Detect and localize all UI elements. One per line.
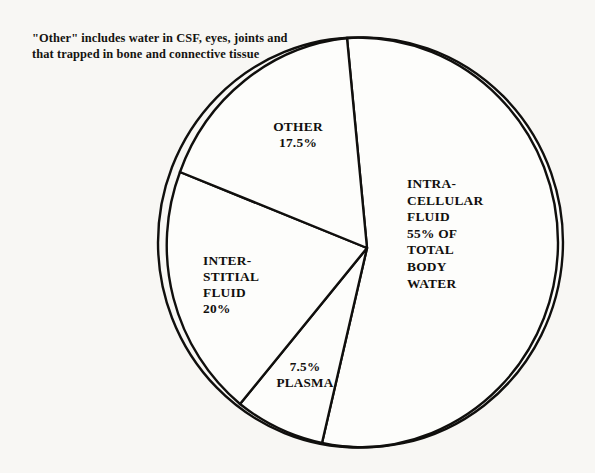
- slice-label-interstitial: INTER- STITIAL FLUID 20%: [203, 253, 323, 317]
- pie-chart-figure: "Other" includes water in CSF, eyes, joi…: [0, 0, 595, 473]
- slice-label-other: OTHER 17.5%: [243, 119, 353, 151]
- slice-label-intracellular: INTRA- CELLULAR FLUID 55% OF TOTAL BODY …: [407, 176, 537, 292]
- slice-label-plasma: 7.5% PLASMA: [255, 359, 355, 391]
